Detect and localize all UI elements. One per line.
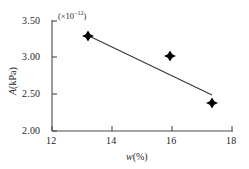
y-axis-title: A(kPa): [8, 67, 18, 95]
x-axis-title: w(%): [126, 152, 148, 162]
trend-line: [87, 35, 212, 95]
x-tick-label-18: 18: [226, 136, 236, 146]
y-tick-label-3-50: 3.50: [22, 16, 40, 26]
data-point-marker: [82, 31, 94, 42]
x-tick-label-12: 12: [46, 136, 56, 146]
y-axis-title-var: A: [7, 89, 18, 95]
exponent-value: −12: [74, 10, 83, 16]
data-point-marker: [206, 98, 218, 109]
y-axis-title-unit: (kPa): [7, 67, 18, 89]
y-axis-ticks: [52, 21, 57, 131]
data-point-marker: [164, 51, 176, 62]
y-tick-label-3-00: 3.00: [22, 52, 40, 62]
x-tick-label-16: 16: [166, 136, 176, 146]
x-axis-ticks: [52, 126, 232, 131]
y-tick-label-2-00: 2.00: [22, 126, 40, 136]
x-axis-title-var: w: [126, 151, 133, 162]
y-tick-label-2-50: 2.50: [22, 89, 40, 99]
chart-figure: (×10−12) 3.50 3.00 2.50 2.00 12 14 16 18…: [0, 0, 249, 169]
y-axis-exponent-label: (×10−12): [58, 9, 86, 21]
exponent-open: (×10: [58, 11, 74, 21]
x-axis-title-unit: (%): [133, 151, 148, 162]
exponent-close: ): [84, 11, 87, 21]
x-tick-label-14: 14: [106, 136, 116, 146]
